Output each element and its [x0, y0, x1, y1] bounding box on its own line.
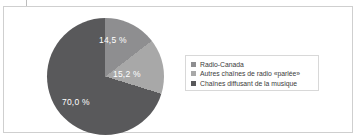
figure-container: 14,5 % 15,2 % 70,0 % Radio-Canada Autres…	[0, 0, 359, 139]
legend-item-label: Radio-Canada	[200, 60, 244, 69]
pie-chart: 14,5 % 15,2 % 70,0 %	[47, 18, 164, 135]
slice-label-radio-canada: 14,5 %	[99, 35, 127, 45]
legend-item-autres-chaines: Autres chaînes de radio «parlée»	[191, 69, 313, 78]
slice-label-musique: 70,0 %	[62, 97, 90, 107]
legend-swatch-icon	[191, 81, 196, 86]
slice-label-autres-chaines: 15,2 %	[113, 69, 141, 79]
legend-item-label: Autres chaînes de radio «parlée»	[200, 69, 300, 78]
legend-item-label: Chaînes diffusant de la musique	[200, 79, 297, 88]
legend-swatch-icon	[191, 62, 196, 67]
legend-item-musique: Chaînes diffusant de la musique	[191, 79, 313, 88]
chart-frame: 14,5 % 15,2 % 70,0 % Radio-Canada Autres…	[3, 6, 353, 133]
chart-legend: Radio-Canada Autres chaînes de radio «pa…	[185, 55, 319, 91]
legend-swatch-icon	[191, 71, 196, 76]
legend-item-radio-canada: Radio-Canada	[191, 60, 313, 69]
